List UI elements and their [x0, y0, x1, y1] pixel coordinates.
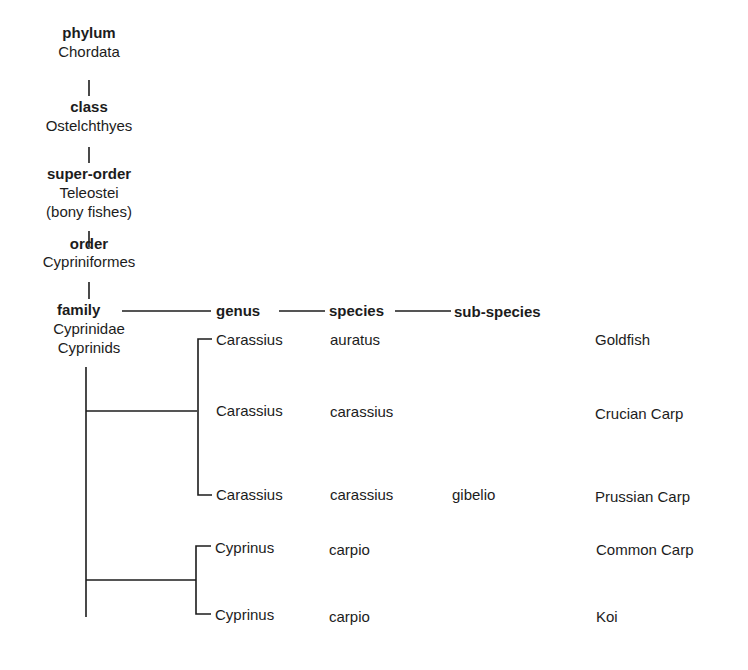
- row-common-name: Prussian Carp: [595, 488, 690, 506]
- row-common-name: Common Carp: [596, 541, 694, 559]
- taxon-order: Cypriniformes: [43, 253, 136, 271]
- rank-label-order: order: [70, 235, 108, 253]
- row-genus: Carassius: [216, 331, 283, 349]
- rank-label-class: class: [70, 98, 108, 116]
- taxon-super-order-note: (bony fishes): [46, 203, 132, 221]
- row-species: carassius: [330, 403, 393, 421]
- row-species: carassius: [330, 486, 393, 504]
- row-subspecies: gibelio: [452, 486, 495, 504]
- row-common-name: Goldfish: [595, 331, 650, 349]
- taxon-super-order: Teleostei: [59, 184, 118, 202]
- column-header-subspecies: sub-species: [454, 303, 541, 321]
- rank-label-phylum: phylum: [62, 24, 115, 42]
- row-common-name: Koi: [596, 608, 618, 626]
- rank-label-super-order: super-order: [47, 165, 131, 183]
- row-species: carpio: [329, 541, 370, 559]
- taxon-family-common: Cyprinids: [58, 339, 121, 357]
- row-species: auratus: [330, 331, 380, 349]
- taxonomy-diagram: phylum Chordata class Ostelchthyes super…: [0, 0, 748, 670]
- taxon-class: Ostelchthyes: [46, 117, 133, 135]
- row-common-name: Crucian Carp: [595, 405, 683, 423]
- column-header-species: species: [329, 302, 384, 320]
- row-genus: Carassius: [216, 402, 283, 420]
- cyprinus-bracket: [196, 546, 211, 614]
- taxon-phylum: Chordata: [58, 43, 120, 61]
- row-genus: Cyprinus: [215, 606, 274, 624]
- rank-label-family: family: [57, 301, 100, 319]
- column-header-genus: genus: [216, 302, 260, 320]
- row-genus: Carassius: [216, 486, 283, 504]
- taxon-family: Cyprinidae: [53, 320, 125, 338]
- carassius-bracket: [198, 339, 212, 495]
- row-genus: Cyprinus: [215, 539, 274, 557]
- row-species: carpio: [329, 608, 370, 626]
